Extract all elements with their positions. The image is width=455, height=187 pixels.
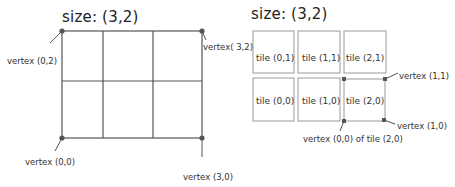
vertex-dot-0-2 <box>59 28 64 33</box>
vertex-label-0-0-of-tile-2-0: vertex (0,0) of tile (2,0) <box>303 134 403 144</box>
tile-label-1-0: tile (1,0) <box>302 96 340 106</box>
tile-label-2-0: tile (2,0) <box>346 96 384 106</box>
left-size-title: size: (3,2) <box>62 8 139 26</box>
left-vertex-dots <box>59 28 204 140</box>
tile-boxes <box>253 31 386 121</box>
vertex-dot-tile-1-1 <box>383 77 387 81</box>
vertex-label-3-0: vertex (3,0) <box>183 172 233 182</box>
vertex-dot-3-2 <box>199 28 204 33</box>
tile-label-0-0: tile (0,0) <box>256 96 294 106</box>
tile-label-2-1: tile (2,1) <box>346 53 384 63</box>
left-grid <box>62 31 202 138</box>
vertex-label-0-0: vertex (0,0) <box>25 157 75 167</box>
vertex-dot-0-0 <box>59 135 64 140</box>
vertex-dot-tile-1-0 <box>382 118 386 122</box>
tile-label-0-1: tile (0,1) <box>256 53 294 63</box>
vertex-dot-3-0 <box>199 135 204 140</box>
vertex-label-1-1: vertex (1,1) <box>399 71 449 81</box>
vertex-dot-tile-0-1 <box>342 77 346 81</box>
tile-label-1-1: tile (1,1) <box>302 53 340 63</box>
vertex-label-3-2: vertex( 3,2) <box>203 42 253 52</box>
right-size-title: size: (3,2) <box>251 5 328 23</box>
vertex-label-1-0: vertex (1,0) <box>397 121 447 131</box>
vertex-dot-tile-0-0 <box>342 119 346 123</box>
vertex-label-0-2: vertex (0,2) <box>7 56 57 66</box>
